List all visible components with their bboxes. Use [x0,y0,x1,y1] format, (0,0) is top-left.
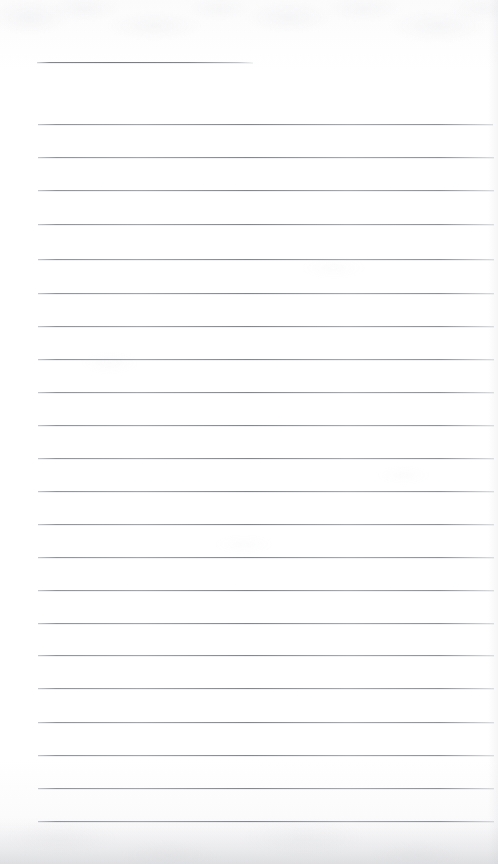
rule-03 [38,190,494,191]
rule-04 [38,224,494,225]
rule-07 [38,326,494,327]
rule-02 [38,157,494,158]
scanned-page: Blank Lined Notebook Page [0,0,498,864]
rule-15 [38,590,494,591]
rule-16 [38,623,494,624]
rule-12 [38,491,494,492]
rule-22 [38,821,494,822]
ruled-lines-group [0,0,498,864]
rule-06 [38,293,494,294]
rule-14 [38,557,494,558]
rule-20 [38,755,494,756]
header-rule [37,62,253,63]
rule-11 [38,458,494,459]
rule-19 [38,722,494,723]
rule-17 [38,655,494,656]
rule-21 [38,788,494,789]
rule-05 [38,259,494,260]
rule-01 [38,124,493,125]
rule-09 [38,392,494,393]
rule-18 [38,688,494,689]
rule-08 [38,359,494,360]
rule-10 [38,425,494,426]
rule-13 [38,524,494,525]
